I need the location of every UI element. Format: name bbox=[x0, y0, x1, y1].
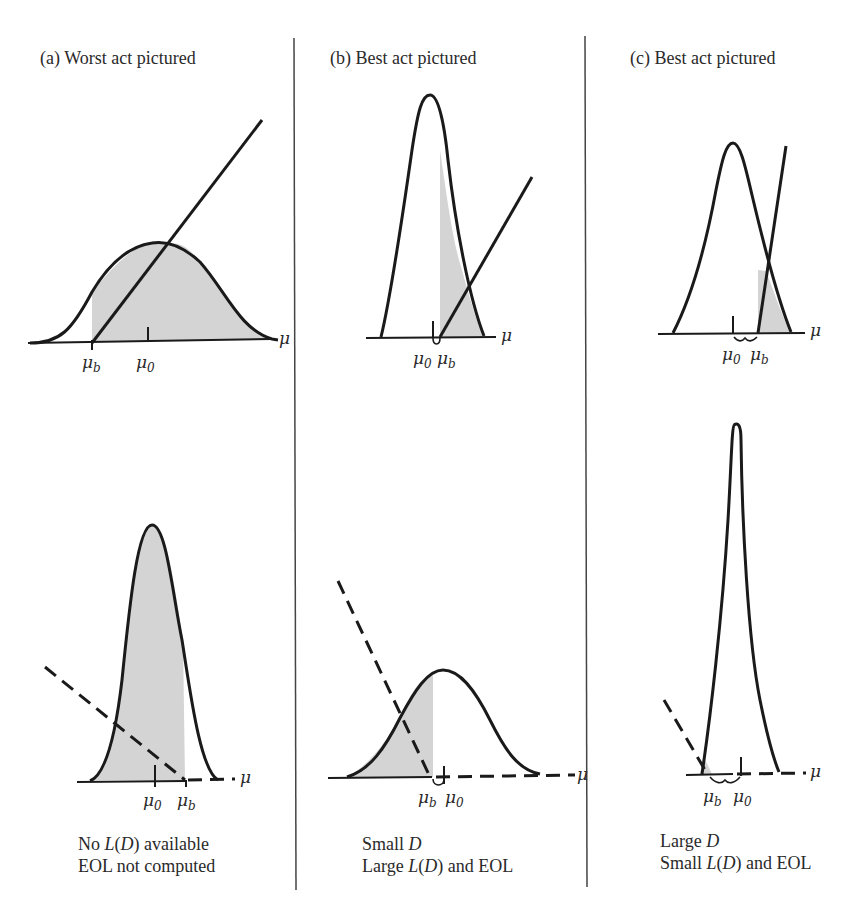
divider-ab bbox=[294, 38, 296, 890]
panel-c-top-mub-label: μb bbox=[750, 344, 769, 367]
panel-b-top-mub-label: μb bbox=[437, 348, 456, 371]
panel-b-bottom-distance-brace bbox=[433, 779, 444, 785]
panel-a-top-mub-label: μb bbox=[82, 352, 101, 375]
panel-c-caption-line1: Large D bbox=[660, 830, 812, 852]
panel-b-caption-line2: Large L(D) and EOL bbox=[362, 855, 513, 877]
panel-a-bottom-mub-label: μb bbox=[177, 790, 196, 813]
panel-b-top-mu-axis bbox=[366, 337, 496, 338]
panel-b-top-axis-label: μ bbox=[501, 325, 512, 345]
panel-c-top-axis-label: μ bbox=[810, 320, 821, 340]
panel-c-caption: Large D Small L(D) and EOL bbox=[660, 830, 812, 874]
panel-c-bottom-distance-brace bbox=[710, 777, 740, 783]
panel-a-top-plot: μb μ0 μ bbox=[28, 120, 290, 375]
panel-a-caption-line2: EOL not computed bbox=[78, 855, 215, 877]
panel-a-caption-line1: No L(D) available bbox=[78, 833, 215, 855]
panel-c-bottom-loss-line bbox=[664, 700, 705, 770]
panel-c-bottom-plot: μb μ0 μ bbox=[664, 424, 821, 809]
panel-a-bottom-plot: μ0 μb μ bbox=[45, 525, 251, 813]
panel-b-top-plot: μ0 μb μ bbox=[366, 95, 532, 371]
panel-c-bottom-axis-label: μ bbox=[810, 761, 821, 781]
panel-b-top-distance-brace bbox=[433, 338, 440, 344]
panel-c-bottom-distribution-curve bbox=[702, 424, 779, 774]
panel-a-bottom-mu-axis bbox=[77, 781, 185, 782]
panel-a-top-axis-label: μ bbox=[279, 328, 290, 348]
panel-c-bottom-mu0-label: μ0 bbox=[733, 786, 752, 809]
panel-b-top-mu0-label: μ0 bbox=[413, 348, 432, 371]
panel-c-bottom-axis-dashed-extension bbox=[737, 773, 806, 774]
panel-c-bottom-mu-axis bbox=[686, 774, 733, 775]
panel-b-caption-line1: Small D bbox=[362, 833, 513, 855]
panel-b-bottom-mu0-label: μ0 bbox=[445, 787, 464, 810]
figure-canvas: μb μ0 μ μ0 μb μ μ0 μb μ μb μ0 bbox=[0, 0, 865, 905]
panel-c-top-distance-brace bbox=[734, 337, 757, 341]
panel-a-bottom-mu0-label: μ0 bbox=[143, 790, 162, 813]
panel-b-bottom-plot: μb μ0 μ bbox=[328, 581, 588, 810]
divider-bc bbox=[585, 36, 587, 887]
panel-b-bottom-axis-dashed-extension bbox=[436, 775, 575, 777]
panel-a-caption: No L(D) available EOL not computed bbox=[78, 833, 215, 877]
panel-a-bottom-axis-dashed-extension bbox=[188, 779, 235, 780]
panel-c-caption-line2: Small L(D) and EOL bbox=[660, 852, 812, 874]
panel-a-top-mu0-label: μ0 bbox=[136, 352, 155, 375]
panel-b-bottom-mu-axis bbox=[328, 777, 432, 778]
panel-c-top-mu0-label: μ0 bbox=[722, 344, 741, 367]
panel-b-bottom-mub-label: μb bbox=[418, 787, 437, 810]
panel-b-caption: Small D Large L(D) and EOL bbox=[362, 833, 513, 877]
panel-c-top-plot: μ0 μb μ bbox=[658, 143, 821, 367]
panel-c-top-mu-axis bbox=[658, 333, 805, 334]
panel-b-bottom-axis-label: μ bbox=[577, 764, 588, 784]
panel-c-bottom-mub-label: μb bbox=[703, 786, 722, 809]
panel-a-bottom-axis-label: μ bbox=[240, 767, 251, 787]
